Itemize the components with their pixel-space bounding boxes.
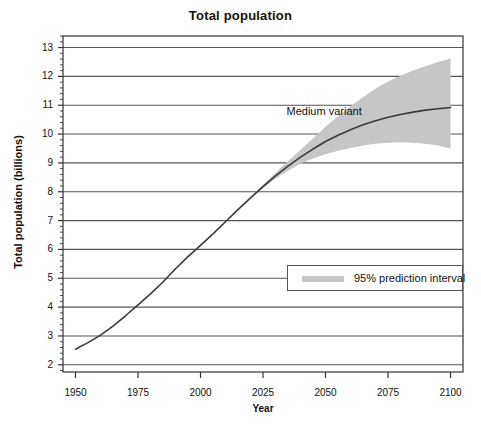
y-tick-label-12: 12 (27, 71, 53, 81)
y-tick-label-11: 11 (27, 100, 53, 110)
medium-variant-annotation: Medium variant (287, 105, 362, 117)
x-tick-label-2100: 2100 (427, 388, 475, 398)
chart-figure: Total population Total population (billi… (0, 0, 481, 425)
y-tick-label-9: 9 (27, 158, 53, 168)
y-tick-label-2: 2 (27, 360, 53, 370)
x-tick-label-2025: 2025 (239, 388, 287, 398)
legend-swatch-prediction-interval (302, 276, 344, 282)
plot-area (0, 0, 481, 425)
x-tick-label-1950: 1950 (52, 388, 100, 398)
y-tick-label-4: 4 (27, 302, 53, 312)
y-tick-label-5: 5 (27, 273, 53, 283)
y-tick-label-7: 7 (27, 216, 53, 226)
chart-legend: 95% prediction interval (287, 265, 463, 291)
x-tick-label-2075: 2075 (364, 388, 412, 398)
y-tick-label-8: 8 (27, 187, 53, 197)
x-tick-label-2000: 2000 (177, 388, 225, 398)
y-tick-label-13: 13 (27, 43, 53, 53)
y-tick-label-10: 10 (27, 129, 53, 139)
y-tick-label-6: 6 (27, 244, 53, 254)
x-tick-label-1975: 1975 (114, 388, 162, 398)
x-tick-label-2050: 2050 (302, 388, 350, 398)
legend-label-prediction-interval: 95% prediction interval (354, 272, 465, 284)
y-tick-label-3: 3 (27, 331, 53, 341)
